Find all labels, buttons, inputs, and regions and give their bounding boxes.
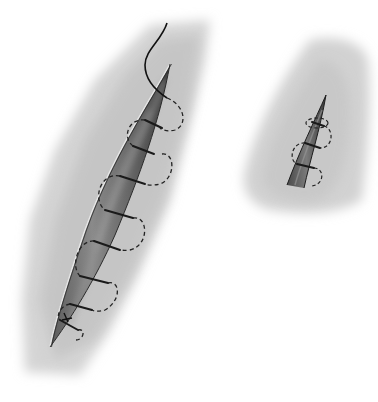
right-skin-region [244,38,370,213]
suture-illustration [0,0,378,402]
